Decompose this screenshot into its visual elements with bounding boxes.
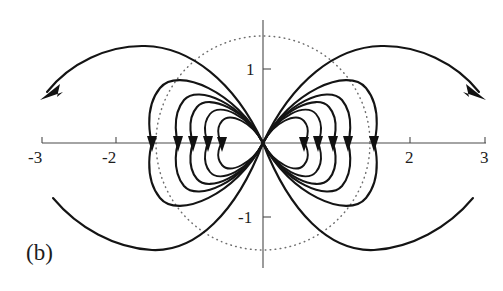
x-tick-label--2: -2 <box>102 148 117 168</box>
arrowhead-down-x-1.15 <box>343 136 353 152</box>
y-tick-label-1: 1 <box>246 60 255 80</box>
x-tick-label-3: 3 <box>480 148 489 168</box>
arrowhead-down-x-0.75 <box>313 136 323 152</box>
x-tick-label-2: 2 <box>405 148 414 168</box>
arrowhead-down-x--0.75 <box>203 136 213 152</box>
arrowhead-down-x--0.95 <box>188 136 198 152</box>
figure-panel-b: -3 -2 2 3 1 -1 (b) <box>0 0 503 291</box>
arrowhead-down-x-0.95 <box>328 136 338 152</box>
phase-portrait-svg <box>0 0 503 291</box>
panel-label: (b) <box>26 240 53 266</box>
y-tick-label--1: -1 <box>238 208 253 228</box>
arrowhead-down-x--1.15 <box>173 136 183 152</box>
x-tick-label--3: -3 <box>28 148 43 168</box>
